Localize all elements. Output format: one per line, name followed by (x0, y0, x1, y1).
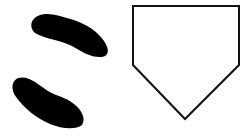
scene-canvas (0, 0, 248, 140)
illustration: Batter footprints beside home plate (0, 0, 248, 140)
